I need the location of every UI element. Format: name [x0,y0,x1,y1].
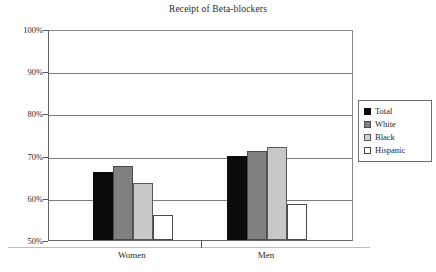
legend-swatch-icon [364,121,371,128]
bar-hispanic-women [153,215,173,240]
y-axis-tick-label: 50% [1,236,43,246]
bar-white-women [113,166,133,240]
legend-swatch-icon [364,147,371,154]
y-axis-tick-label: 100% [1,25,43,35]
legend-item-total[interactable]: Total [364,105,428,118]
gridline [49,73,352,74]
legend-item-label: Hispanic [375,146,405,155]
gridline [49,158,352,159]
chart-container: Receipt of Beta-blockers 100%90%80%70%60… [0,0,436,272]
x-axis-tick [201,241,202,248]
legend-item-label: Black [375,133,395,142]
y-axis-tick-label: 80% [1,109,43,119]
plot-area [48,30,353,241]
x-axis-label-women: Women [118,250,146,260]
legend-item-label: Total [375,107,392,116]
x-axis-baseline [8,247,370,248]
bar-black-men [267,147,287,240]
y-axis-tick-label: 70% [1,152,43,162]
y-axis-tick [43,241,48,242]
gridline [49,115,352,116]
legend-swatch-icon [364,108,371,115]
bar-white-men [247,151,267,240]
y-axis-tick-label: 90% [1,67,43,77]
bar-total-women [93,172,113,240]
legend-item-label: White [375,120,396,129]
legend-item-white[interactable]: White [364,118,428,131]
chart-title: Receipt of Beta-blockers [0,4,436,14]
bar-total-men [227,156,247,240]
y-axis-labels: 100%90%80%70%60%50% [0,0,43,272]
bar-black-women [133,183,153,240]
legend: TotalWhiteBlackHispanic [358,100,432,162]
y-axis-tick-label: 60% [1,194,43,204]
legend-swatch-icon [364,134,371,141]
bar-hispanic-men [287,204,307,240]
legend-item-black[interactable]: Black [364,131,428,144]
x-axis-label-men: Men [258,250,275,260]
legend-item-hispanic[interactable]: Hispanic [364,144,428,157]
